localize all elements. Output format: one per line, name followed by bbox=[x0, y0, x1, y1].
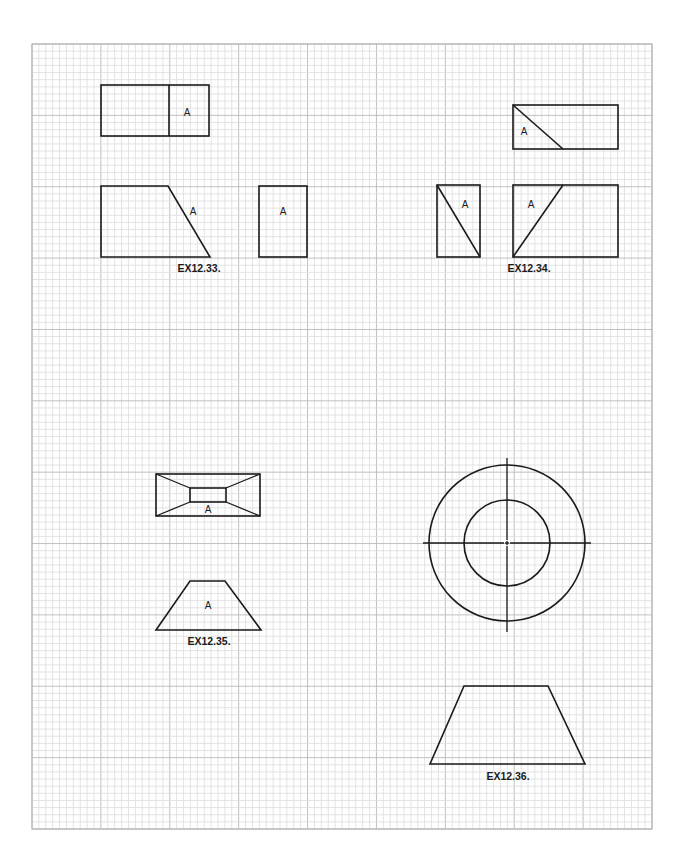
ex12-34-front-view: A bbox=[513, 185, 618, 257]
surface-label-a: A bbox=[205, 504, 212, 515]
top-view-outline bbox=[513, 105, 618, 149]
edge-line bbox=[226, 474, 260, 488]
surface-label-a: A bbox=[462, 199, 469, 210]
edge-line bbox=[156, 502, 190, 516]
ex12-36-top-view bbox=[423, 458, 591, 632]
side-view-diagonal bbox=[437, 185, 480, 257]
top-view-inner-outline bbox=[190, 488, 226, 502]
surface-label-a: A bbox=[521, 126, 528, 137]
grid bbox=[32, 44, 652, 829]
graph-paper-sheet: A A A EX12.33. A A A EX12.34. bbox=[0, 0, 688, 860]
exercise-ex12-34: A A A EX12.34. bbox=[437, 105, 618, 274]
surface-label-a: A bbox=[184, 107, 191, 118]
surface-label-a: A bbox=[280, 206, 287, 217]
surface-label-a: A bbox=[528, 199, 535, 210]
ex12-33-front-view: A bbox=[101, 186, 210, 257]
exercise-label: EX12.35. bbox=[187, 635, 230, 647]
top-view-outline bbox=[101, 85, 209, 136]
edge-line bbox=[156, 474, 190, 488]
ex12-34-top-view: A bbox=[513, 105, 618, 149]
exercise-label: EX12.33. bbox=[177, 262, 220, 274]
exercise-label: EX12.36. bbox=[486, 770, 529, 782]
ex12-34-side-view: A bbox=[437, 185, 480, 257]
edge-line bbox=[226, 502, 260, 516]
ex12-35-top-view: A bbox=[156, 474, 260, 516]
front-view-outline bbox=[101, 186, 210, 257]
exercise-label: EX12.34. bbox=[507, 262, 550, 274]
surface-label-a: A bbox=[205, 600, 212, 611]
ex12-33-top-view: A bbox=[101, 85, 209, 136]
surface-label-a: A bbox=[190, 206, 197, 217]
front-view-outline bbox=[513, 185, 618, 257]
